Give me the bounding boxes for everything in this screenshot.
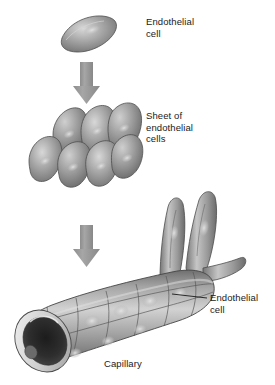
label-sheet-of-endothelial-cells: Sheet of endothelial cells — [146, 110, 193, 145]
arrow-1-shaft — [80, 62, 93, 88]
label-endothelial-cell-top: Endothelial cell — [146, 16, 194, 39]
arrow-2-shaft — [80, 225, 93, 250]
endothelial-capillary-diagram — [0, 0, 275, 385]
label-endothelial-cell-capillary: Endothelial cell — [210, 292, 258, 315]
label-capillary: Capillary — [104, 358, 142, 370]
